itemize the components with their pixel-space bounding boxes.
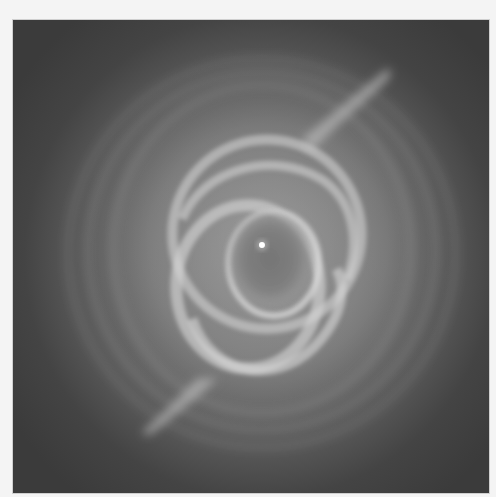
- nebula-photo: [12, 19, 490, 494]
- nebula-illustration: [13, 20, 489, 493]
- inner-cavity: [230, 213, 310, 305]
- central-star-glow: [256, 239, 268, 251]
